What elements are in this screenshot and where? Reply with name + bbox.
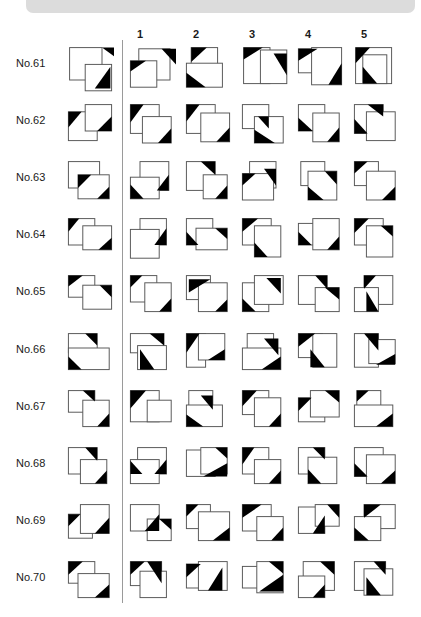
answer-figure-row-1-option-5[interactable] bbox=[352, 101, 400, 149]
answer-figure-row-1-option-2[interactable] bbox=[184, 101, 232, 149]
answer-figure-row-0-option-2[interactable] bbox=[184, 44, 232, 92]
question-figure-row-1 bbox=[66, 101, 114, 149]
question-figure-row-8 bbox=[66, 501, 114, 549]
worksheet-page: 12345 No.61No.62No.63No.64No.65No.66No.6… bbox=[0, 0, 421, 617]
answer-figure-row-8-option-2[interactable] bbox=[184, 501, 232, 549]
answer-figure-row-4-option-5[interactable] bbox=[352, 272, 400, 320]
row-label-no63: No.63 bbox=[16, 171, 62, 184]
row-label-no69: No.69 bbox=[16, 514, 62, 527]
answer-figure-row-3-option-1[interactable] bbox=[128, 215, 176, 263]
answer-figure-row-4-option-2[interactable] bbox=[184, 272, 232, 320]
answer-figure-row-9-option-1[interactable] bbox=[128, 558, 176, 606]
row-label-no66: No.66 bbox=[16, 343, 62, 356]
answer-figure-row-8-option-5[interactable] bbox=[352, 501, 400, 549]
answer-figure-row-4-option-4[interactable] bbox=[296, 272, 344, 320]
answer-figure-row-0-option-4[interactable] bbox=[296, 44, 344, 92]
column-header-3: 3 bbox=[240, 27, 264, 41]
answer-figure-row-1-option-3[interactable] bbox=[240, 101, 288, 149]
column-header-2: 2 bbox=[184, 27, 208, 41]
answer-figure-row-0-option-5[interactable] bbox=[352, 44, 400, 92]
answer-figure-row-9-option-5[interactable] bbox=[352, 558, 400, 606]
question-figure-row-9 bbox=[66, 558, 114, 606]
answer-figure-row-9-option-2[interactable] bbox=[184, 558, 232, 606]
row-label-no64: No.64 bbox=[16, 228, 62, 241]
column-header-row: 12345 bbox=[0, 27, 421, 41]
question-figure-row-0 bbox=[66, 44, 114, 92]
answer-figure-row-2-option-5[interactable] bbox=[352, 158, 400, 206]
column-header-5: 5 bbox=[352, 27, 376, 41]
answer-figure-row-4-option-1[interactable] bbox=[128, 272, 176, 320]
answer-figure-row-8-option-1[interactable] bbox=[128, 501, 176, 549]
answer-figure-row-3-option-4[interactable] bbox=[296, 215, 344, 263]
answer-figure-row-9-option-3[interactable] bbox=[240, 558, 288, 606]
row-label-no65: No.65 bbox=[16, 285, 62, 298]
row-label-no61: No.61 bbox=[16, 57, 62, 70]
answer-figure-row-7-option-1[interactable] bbox=[128, 444, 176, 492]
question-figure-row-4 bbox=[66, 272, 114, 320]
column-header-4: 4 bbox=[296, 27, 320, 41]
row-label-no68: No.68 bbox=[16, 457, 62, 470]
answer-figure-row-5-option-3[interactable] bbox=[240, 330, 288, 378]
question-figure-row-5 bbox=[66, 330, 114, 378]
answer-figure-row-5-option-4[interactable] bbox=[296, 330, 344, 378]
question-answer-divider bbox=[122, 40, 123, 603]
answer-figure-row-1-option-4[interactable] bbox=[296, 101, 344, 149]
row-label-no70: No.70 bbox=[16, 571, 62, 584]
question-figure-row-7 bbox=[66, 444, 114, 492]
answer-figure-row-8-option-3[interactable] bbox=[240, 501, 288, 549]
answer-figure-row-2-option-3[interactable] bbox=[240, 158, 288, 206]
row-label-no67: No.67 bbox=[16, 400, 62, 413]
answer-figure-row-6-option-2[interactable] bbox=[184, 387, 232, 435]
answer-figure-row-2-option-4[interactable] bbox=[296, 158, 344, 206]
answer-figure-row-1-option-1[interactable] bbox=[128, 101, 176, 149]
answer-figure-row-3-option-2[interactable] bbox=[184, 215, 232, 263]
answer-figure-row-0-option-1[interactable] bbox=[128, 44, 176, 92]
answer-figure-row-4-option-3[interactable] bbox=[240, 272, 288, 320]
answer-figure-row-0-option-3[interactable] bbox=[240, 44, 288, 92]
answer-figure-row-5-option-2[interactable] bbox=[184, 330, 232, 378]
row-label-no62: No.62 bbox=[16, 114, 62, 127]
answer-figure-row-6-option-4[interactable] bbox=[296, 387, 344, 435]
answer-figure-row-6-option-3[interactable] bbox=[240, 387, 288, 435]
answer-figure-row-2-option-1[interactable] bbox=[128, 158, 176, 206]
column-header-1: 1 bbox=[128, 27, 152, 41]
answer-figure-row-3-option-3[interactable] bbox=[240, 215, 288, 263]
answer-figure-row-5-option-1[interactable] bbox=[128, 330, 176, 378]
header-banner bbox=[26, 0, 415, 13]
answer-figure-row-3-option-5[interactable] bbox=[352, 215, 400, 263]
answer-figure-row-7-option-4[interactable] bbox=[296, 444, 344, 492]
answer-figure-row-2-option-2[interactable] bbox=[184, 158, 232, 206]
answer-figure-row-9-option-4[interactable] bbox=[296, 558, 344, 606]
answer-figure-row-6-option-1[interactable] bbox=[128, 387, 176, 435]
answer-figure-row-7-option-5[interactable] bbox=[352, 444, 400, 492]
question-figure-row-3 bbox=[66, 215, 114, 263]
question-figure-row-6 bbox=[66, 387, 114, 435]
answer-figure-row-8-option-4[interactable] bbox=[296, 501, 344, 549]
answer-figure-row-7-option-3[interactable] bbox=[240, 444, 288, 492]
answer-figure-row-6-option-5[interactable] bbox=[352, 387, 400, 435]
question-figure-row-2 bbox=[66, 158, 114, 206]
answer-figure-row-7-option-2[interactable] bbox=[184, 444, 232, 492]
answer-figure-row-5-option-5[interactable] bbox=[352, 330, 400, 378]
